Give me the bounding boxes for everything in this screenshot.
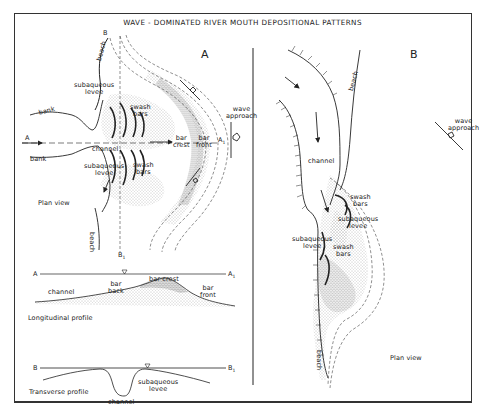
panel-b-subaqueous-levee-upper-label: subaqueouslevee <box>338 216 378 230</box>
bar-crest-label: barcrest <box>173 135 190 149</box>
bar-front-label: barfront <box>196 135 212 149</box>
panel-b-wave-approach-label: waveapproach <box>448 118 479 132</box>
longitudinal-end-label: A1 <box>228 271 236 280</box>
longitudinal-bar-front-label: barfront <box>200 285 216 299</box>
bank-bottom-label: bank <box>30 156 46 163</box>
subaqueous-levee-top-label: subaqueouslevee <box>74 82 114 96</box>
panel-a-label: A <box>201 51 209 58</box>
section-a1-label: A1 <box>218 137 226 146</box>
longitudinal-start-label: A <box>33 271 38 278</box>
panel-b-swash-bars-upper-label: swashbars <box>350 194 371 208</box>
longitudinal-profile-caption: Longitudinal profile <box>28 315 93 322</box>
section-a-start-label: A <box>25 135 30 142</box>
transverse-subaqueous-levee-label: subaqueouslevee <box>138 379 178 393</box>
transverse-start-label: B <box>33 365 38 372</box>
panel-b-label: B <box>410 51 418 58</box>
wave-approach-a-label: waveapproach <box>226 106 257 120</box>
plan-view-b-caption: Plan view <box>390 355 422 362</box>
swash-bars-top-label: swashbars <box>130 104 151 118</box>
beach-bottom-label: beach <box>88 232 95 252</box>
channel-label: channel <box>92 146 118 153</box>
longitudinal-bar-crest-label: bar crest <box>149 276 179 283</box>
panel-b-swash-bars-lower-label: swashbars <box>333 244 354 258</box>
transverse-channel-label: channel <box>108 399 134 406</box>
section-b-start-label: B <box>103 30 108 37</box>
transverse-profile-caption: Transverse profile <box>29 389 88 396</box>
panel-b-beach-bottom-label: beach <box>315 350 322 370</box>
subaqueous-levee-bottom-label: subaqueouslevee <box>84 163 124 177</box>
transverse-end-label: B1 <box>228 365 236 374</box>
figure: WAVE - DOMINATED RIVER MOUTH DEPOSITIONA… <box>0 0 485 419</box>
panel-b-channel-label: channel <box>308 158 334 165</box>
plan-view-a-caption: Plan view <box>38 200 70 207</box>
longitudinal-channel-label: channel <box>48 289 74 296</box>
swash-bars-bottom-label: swashbars <box>133 162 154 176</box>
longitudinal-bar-back-label: barback <box>108 281 124 295</box>
section-b1-label: B1 <box>118 252 126 261</box>
panel-b-subaqueous-levee-lower-label: subaqueouslevee <box>292 236 332 250</box>
